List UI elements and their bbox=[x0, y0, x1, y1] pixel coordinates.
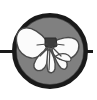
butterfly-body bbox=[45, 38, 57, 48]
figure-container bbox=[0, 0, 97, 100]
butterfly-disc-diagram bbox=[0, 0, 97, 100]
